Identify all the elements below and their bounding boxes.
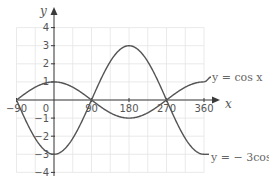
x-tick-label: 360 [194, 103, 213, 114]
y-tick-label: 2 [43, 58, 49, 69]
x-tick-label: 0 [43, 103, 49, 114]
cos-curve-label: y = cos x [211, 71, 263, 84]
cos-label-leader [204, 77, 211, 82]
y-tick-label: −1 [34, 113, 49, 124]
y-axis-arrow-icon [51, 7, 58, 15]
x-axis-label: x [225, 97, 232, 111]
cosine-chart: x y 4321−1−2−3−4−90090180270360 y = cos … [0, 0, 269, 177]
y-tick-label: 3 [43, 40, 49, 51]
y-tick-label: 4 [43, 22, 49, 33]
y-axis-label: y [39, 4, 47, 18]
y-tick-label: −3 [34, 149, 49, 160]
neg-3cos-curve-label: y = − 3cos x [210, 151, 269, 164]
y-tick-label: −4 [34, 167, 49, 177]
axes: x y [18, 4, 232, 176]
x-tick-label: −90 [6, 103, 27, 114]
x-tick-label: 180 [119, 103, 138, 114]
